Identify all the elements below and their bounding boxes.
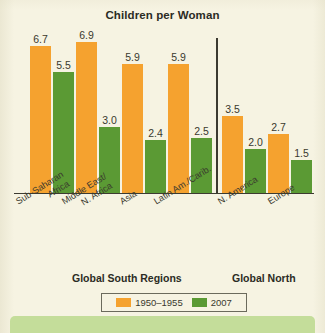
bar-value-label: 6.7: [33, 33, 48, 45]
bar-value-label: 3.5: [225, 103, 240, 115]
chart-legend: 1950–1955 2007: [101, 293, 247, 312]
bar-2007-asia[interactable]: 2.4: [145, 140, 166, 193]
bar-1950-1955-latin-america-caribbean[interactable]: 5.9: [168, 64, 189, 193]
bar-value-label: 5.9: [171, 51, 186, 63]
bar-1950-1955-europe[interactable]: 2.7: [268, 134, 289, 193]
bar-value-label: 2.5: [194, 125, 209, 137]
x-axis-tick-labels: Sub-Saharan Africa Middle East/ N. Afric…: [0, 196, 325, 268]
bottom-color-band: [10, 316, 315, 333]
bar-value-label: 2.0: [248, 136, 263, 148]
legend-swatch-icon: [116, 298, 131, 307]
legend-label: 2007: [211, 297, 232, 308]
bar-1950-1955-north-america[interactable]: 3.5: [222, 116, 243, 193]
bar-1950-1955-asia[interactable]: 5.9: [122, 64, 143, 193]
region-caption-global-north: Global North: [232, 272, 296, 284]
page-title: Children per Woman: [0, 9, 325, 21]
bar-value-label: 6.9: [79, 29, 94, 41]
legend-label: 1950–1955: [135, 297, 183, 308]
bar-value-label: 3.0: [102, 114, 117, 126]
bar-value-label: 5.5: [56, 59, 71, 71]
bar-1950-1955-middle-east-n-africa[interactable]: 6.9: [76, 42, 97, 193]
legend-item-2007[interactable]: 2007: [192, 297, 232, 308]
bar-1950-1955-sub-saharan-africa[interactable]: 6.7: [30, 46, 51, 193]
bar-value-label: 2.7: [271, 121, 286, 133]
bar-value-label: 5.9: [125, 51, 140, 63]
region-divider-line: [216, 38, 218, 194]
legend-item-1950-1955[interactable]: 1950–1955: [116, 297, 183, 308]
bar-value-label: 2.4: [148, 127, 163, 139]
legend-swatch-icon: [192, 298, 207, 307]
region-caption-global-south: Global South Regions: [72, 272, 182, 284]
chart-figure: Children per Woman 6.7 5.5 6.9 3.0 5.9: [0, 0, 325, 333]
bar-value-label: 1.5: [294, 147, 309, 159]
